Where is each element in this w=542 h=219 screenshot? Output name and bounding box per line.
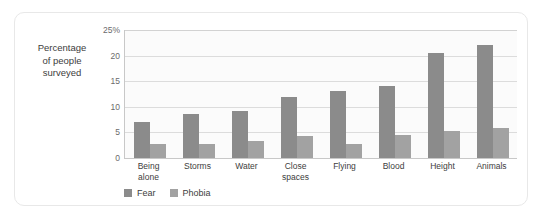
y-axis-title: Percentage of people surveyed [26, 42, 98, 80]
bar-phobia[interactable] [346, 144, 362, 158]
bar-fear[interactable] [477, 45, 493, 158]
bar-fear[interactable] [428, 53, 444, 158]
x-tick-label: Height [418, 161, 467, 182]
bar-fear[interactable] [134, 122, 150, 158]
bar-group [419, 30, 468, 158]
bar-group [321, 30, 370, 158]
x-tick-label: Flying [320, 161, 369, 182]
plot-area [124, 30, 517, 159]
legend-swatch-icon [170, 189, 178, 197]
legend-label: Fear [137, 188, 156, 198]
y-tick-label: 20 [111, 51, 120, 61]
chart-legend: FearPhobia [124, 188, 211, 198]
y-tick-label: 10 [111, 102, 120, 112]
bar-fear[interactable] [232, 111, 248, 158]
y-tick-label: 25% [103, 25, 120, 35]
bar-phobia[interactable] [248, 141, 264, 158]
bar-group [174, 30, 223, 158]
bar-phobia[interactable] [150, 144, 166, 158]
bar-group [370, 30, 419, 158]
x-tick-label: Blood [369, 161, 418, 182]
x-axis-tick-labels: Being aloneStormsWaterClose spacesFlying… [124, 161, 516, 182]
bar-phobia[interactable] [297, 136, 313, 158]
bar-fear[interactable] [379, 86, 395, 158]
bar-phobia[interactable] [199, 144, 215, 158]
bar-fear[interactable] [183, 114, 199, 158]
bar-group [272, 30, 321, 158]
y-tick-label: 15 [111, 76, 120, 86]
bar-phobia[interactable] [395, 135, 411, 158]
x-tick-label: Storms [173, 161, 222, 182]
y-tick-label: 0 [115, 153, 120, 163]
bar-phobia[interactable] [444, 131, 460, 158]
y-axis-tick-labels: 0510152025% [92, 24, 120, 158]
legend-item-fear[interactable]: Fear [124, 188, 156, 198]
y-tick-label: 5 [115, 127, 120, 137]
bar-group [125, 30, 174, 158]
legend-item-phobia[interactable]: Phobia [170, 188, 211, 198]
legend-swatch-icon [124, 189, 132, 197]
x-tick-label: Water [222, 161, 271, 182]
bar-fear[interactable] [281, 97, 297, 158]
bar-group [468, 30, 517, 158]
bar-fear[interactable] [330, 91, 346, 158]
x-tick-label: Animals [467, 161, 516, 182]
bar-phobia[interactable] [493, 128, 509, 158]
bar-series-container [125, 30, 517, 158]
legend-label: Phobia [183, 188, 211, 198]
x-tick-label: Close spaces [271, 161, 320, 182]
chart-figure: Percentage of people surveyed 0510152025… [0, 0, 542, 219]
bar-group [223, 30, 272, 158]
x-tick-label: Being alone [124, 161, 173, 182]
